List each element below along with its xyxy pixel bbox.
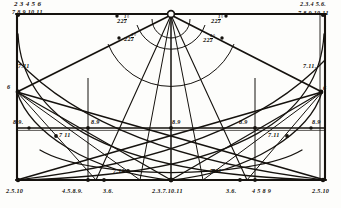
angle-inner-left-degree-sign: ° [134, 33, 136, 39]
node-arc-left-tick [117, 36, 120, 39]
node-upper-left [16, 90, 21, 95]
node-base-right-inner [253, 178, 257, 182]
apex-pivot-group [168, 11, 175, 18]
label-cross-right-lower: 7.11 [210, 168, 222, 174]
fan-ray-right-inner [171, 15, 203, 180]
node-fan-right-tick [224, 14, 227, 17]
label-cross-left-upper: 7 11 [59, 132, 71, 138]
node-midline-right [309, 126, 312, 129]
node-cross-right-upper [285, 134, 289, 138]
label-top-left-lower: 7 8 9 10 11 [12, 9, 43, 15]
label-upper-left-below: 6 [7, 84, 10, 90]
label-angle-inner-left: 2212° [124, 33, 136, 43]
apex-fan-group [17, 15, 322, 180]
angle-outer-left-degree-sign: ° [127, 15, 129, 21]
angle-outer-left-value: 22 [117, 17, 124, 24]
label-top-right-upper: 2.3.4 5.6. [300, 1, 326, 7]
node-base-left-inner [86, 178, 90, 182]
label-bottom-center: 2.3.7.10.11 [152, 188, 183, 194]
label-top-right-lower: 7.8.9 10.11 [298, 10, 329, 16]
angle-outer-right-value: 22 [211, 17, 218, 24]
label-bottom-left-corner: 2.5.10 [6, 188, 23, 194]
label-midline-right: 8.9 [239, 119, 248, 125]
label-midline-left: 8.9 [91, 119, 100, 125]
diagram-page: 2 3 4 5 6 7 8 9 10 11 2.3.4 5.6. 7.8.9 1… [0, 0, 341, 208]
node-arc-right-tick [220, 36, 223, 39]
node-bottom-right-corner [321, 178, 325, 182]
label-bottom-right-corner: 2.5.10 [312, 188, 329, 194]
angle-outer-right-degree-sign: ° [221, 15, 223, 21]
label-bottom-left-mid: 3.6. [103, 188, 113, 194]
node-midline-center [169, 126, 173, 130]
angle-inner-right-value: 22 [203, 36, 210, 43]
fan-ray-far-right [171, 15, 322, 92]
angle-inner-left-value: 22 [124, 35, 131, 42]
label-bottom-right-inner: 4 5 8 9 [252, 188, 271, 194]
fan-ray-left-inner [140, 15, 171, 180]
label-midline-far-right: 8.9 [312, 119, 321, 125]
node-midline-left-inner [86, 126, 90, 130]
label-upper-left-node: 7.11 [18, 63, 30, 69]
label-cross-left-lower: 7.11 [113, 168, 125, 174]
label-top-left-upper: 2 3 4 5 6 [14, 1, 41, 8]
fan-ray-far-left [17, 15, 171, 92]
label-midline-far-left: 8.9. [13, 119, 23, 125]
label-angle-outer-right: 2212° [211, 15, 223, 25]
label-bottom-right-mid: 3.6. [226, 188, 236, 194]
node-base-center [169, 178, 174, 183]
label-bottom-left-inner: 4.5.8.9. [62, 188, 83, 194]
node-base-left-mid [102, 178, 106, 182]
apex-pivot-point [168, 11, 175, 18]
node-bottom-left-corner [16, 178, 20, 182]
node-midline-right-inner [253, 126, 257, 130]
node-midline-left [27, 126, 30, 129]
label-cross-right-upper: 7.11 [268, 132, 280, 138]
label-midline-center: 8.9 [172, 119, 181, 125]
label-angle-outer-left: 2212° [117, 15, 129, 25]
label-upper-right-node: 7.11. [303, 63, 317, 69]
node-cross-left-upper [54, 134, 58, 138]
label-upper-right-below: 6 [323, 85, 326, 91]
node-cross-left-lower [126, 169, 130, 173]
short-ray-ur-node-a [247, 92, 322, 180]
node-base-right-mid [238, 178, 242, 182]
label-angle-inner-right: 2212° [203, 34, 215, 44]
construction-drawing [0, 0, 341, 208]
angle-inner-right-degree-sign: ° [213, 34, 215, 40]
